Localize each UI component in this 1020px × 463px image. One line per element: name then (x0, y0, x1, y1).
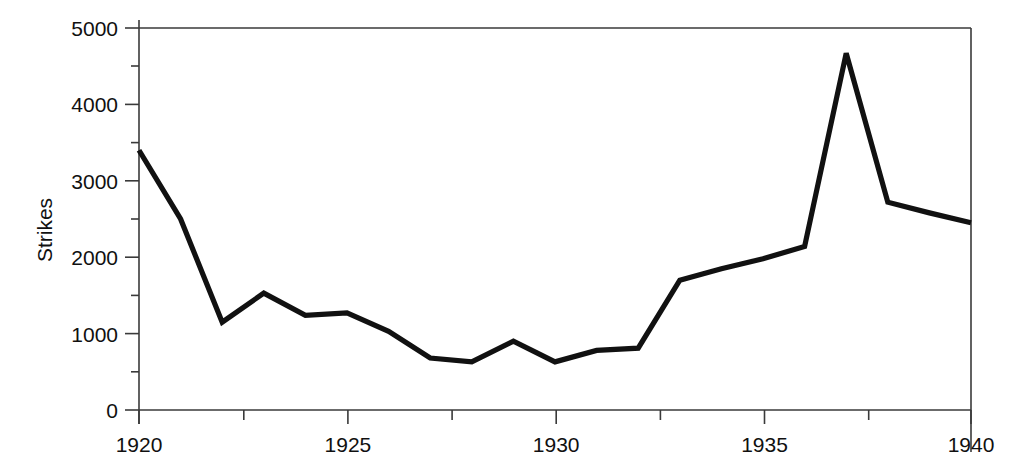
x-tick-label-1940: 1940 (948, 433, 995, 456)
y-tick-label-1000: 1000 (71, 323, 118, 346)
line-chart: 5000 4000 3000 2000 1000 0 Strikes 1920 … (0, 0, 1020, 463)
x-tick-label-1935: 1935 (741, 433, 788, 456)
axes-frame (139, 20, 971, 452)
y-axis-title: Strikes (33, 198, 56, 262)
x-tick-label-1920: 1920 (116, 433, 163, 456)
y-tick-label-3000: 3000 (71, 170, 118, 193)
y-tick-label-4000: 4000 (71, 93, 118, 116)
x-axis-ticks (139, 410, 971, 424)
y-tick-label-2000: 2000 (71, 246, 118, 269)
x-tick-label-1925: 1925 (325, 433, 372, 456)
series-line-strikes (139, 53, 971, 362)
x-tick-labels: 1920 1925 1930 1935 1940 (116, 433, 995, 456)
x-tick-label-1930: 1930 (533, 433, 580, 456)
chart-page: 5000 4000 3000 2000 1000 0 Strikes 1920 … (0, 0, 1020, 463)
y-tick-labels: 5000 4000 3000 2000 1000 0 (71, 17, 118, 422)
y-axis-ticks (125, 28, 139, 410)
y-tick-label-5000: 5000 (71, 17, 118, 40)
y-tick-label-0: 0 (106, 399, 118, 422)
